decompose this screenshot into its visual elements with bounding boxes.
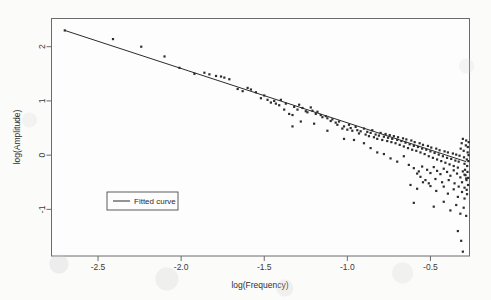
data-point: [383, 153, 385, 155]
x-tick-label: -2.5: [91, 262, 106, 272]
data-point: [326, 117, 328, 119]
data-point: [393, 135, 395, 137]
data-point: [446, 171, 448, 173]
data-point: [416, 188, 418, 190]
legend[interactable]: Fitted curve: [107, 192, 178, 210]
data-point: [428, 182, 430, 184]
y-axis-title: log(Amplitude): [12, 109, 22, 164]
data-point: [389, 134, 391, 136]
data-point: [463, 163, 465, 165]
data-point: [408, 164, 410, 166]
data-point: [399, 144, 401, 146]
data-point: [270, 101, 272, 103]
data-point: [433, 206, 435, 208]
data-point: [461, 191, 463, 193]
data-point: [414, 141, 416, 143]
chart-figure: 210-1 -2.5-2.0-1.5-1.0-0.5 log(Frequency…: [0, 0, 491, 300]
data-point: [283, 108, 285, 110]
scatter-plot-svg: 210-1 -2.5-2.0-1.5-1.0-0.5 log(Frequency…: [0, 0, 491, 300]
data-point: [403, 145, 405, 147]
data-point: [296, 108, 298, 110]
data-point: [215, 75, 217, 77]
data-point: [455, 154, 457, 156]
data-point: [449, 175, 451, 177]
data-point: [341, 127, 343, 129]
data-point: [461, 181, 463, 183]
data-point: [419, 151, 421, 153]
data-point: [449, 209, 451, 211]
data-point: [242, 90, 244, 92]
data-point: [390, 141, 392, 143]
data-point: [458, 161, 460, 163]
y-tick-label: 1: [38, 98, 48, 103]
data-point: [463, 187, 465, 189]
data-point: [336, 124, 338, 126]
data-point: [453, 165, 455, 167]
data-point: [448, 179, 450, 181]
data-point: [467, 177, 469, 179]
data-point: [237, 88, 239, 90]
data-point: [407, 147, 409, 149]
data-point: [463, 207, 465, 209]
data-point: [424, 179, 426, 181]
data-point: [459, 213, 461, 215]
data-point: [462, 138, 464, 140]
data-point: [459, 176, 461, 178]
data-point: [381, 139, 383, 141]
data-point: [350, 127, 352, 129]
data-point: [447, 193, 449, 195]
data-point: [343, 125, 345, 127]
data-point: [343, 138, 345, 140]
data-point: [376, 138, 378, 140]
data-point: [457, 196, 459, 198]
data-point: [465, 177, 467, 179]
data-point: [288, 113, 290, 115]
data-point: [335, 122, 337, 124]
x-axis-title: log(Frequency): [231, 280, 288, 290]
data-point: [140, 46, 142, 48]
y-tick-label: -1: [38, 205, 48, 213]
data-point: [275, 103, 277, 105]
data-point: [356, 129, 358, 131]
data-point: [446, 157, 448, 159]
data-point: [453, 169, 455, 171]
data-point: [360, 130, 362, 132]
data-point: [463, 197, 465, 199]
data-point: [433, 152, 435, 154]
data-point: [467, 154, 469, 156]
data-point: [358, 132, 360, 134]
data-point: [452, 152, 454, 154]
data-point: [419, 142, 421, 144]
data-point: [462, 170, 464, 172]
data-point: [443, 201, 445, 203]
data-point: [403, 155, 405, 157]
data-point: [389, 157, 391, 159]
data-point: [463, 174, 465, 176]
data-point: [464, 169, 466, 171]
data-point: [460, 240, 462, 242]
data-point: [454, 159, 456, 161]
data-point: [457, 230, 459, 232]
data-point: [386, 140, 388, 142]
data-point: [421, 165, 423, 167]
data-point: [370, 147, 372, 149]
data-point: [438, 149, 440, 151]
y-tick-label: 2: [38, 44, 48, 49]
data-point: [366, 131, 368, 133]
data-point: [439, 173, 441, 175]
data-point: [397, 136, 399, 138]
data-point: [458, 155, 460, 157]
data-point: [443, 168, 445, 170]
data-point: [112, 38, 114, 40]
data-point: [387, 137, 389, 139]
data-point: [424, 153, 426, 155]
data-point: [247, 87, 249, 89]
data-point: [457, 167, 459, 169]
data-point: [429, 172, 431, 174]
data-point: [409, 184, 411, 186]
data-point: [326, 130, 328, 132]
x-tick-label: -1.5: [257, 262, 272, 272]
data-point: [413, 167, 415, 169]
data-point: [266, 99, 268, 101]
data-point: [453, 182, 455, 184]
